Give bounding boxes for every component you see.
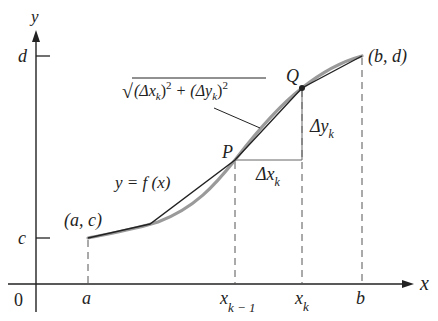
y-tick-c-label: c [18, 228, 26, 248]
point-end-label: (b, d) [368, 46, 407, 67]
diagram-canvas: y d c 0 x a xk − 1 xk b (a, c) (b, d) P … [0, 0, 438, 321]
segment-leader-line [214, 108, 260, 128]
delta-x-label: Δxk [255, 164, 281, 189]
segment-length-formula: √ (Δxk)2 + (Δyk)2 [122, 78, 266, 102]
x-tick-a-label: a [82, 288, 91, 308]
delta-y-label: Δyk [309, 116, 335, 141]
point-p-label: P [221, 142, 233, 162]
x-axis-label: x [419, 272, 429, 294]
y-axis-label: y [29, 7, 39, 26]
axes [8, 30, 414, 312]
y-tick-d-label: d [18, 46, 28, 66]
x-tick-b-label: b [356, 288, 365, 308]
arc-length-diagram: y d c 0 x a xk − 1 xk b (a, c) (b, d) P … [0, 0, 438, 321]
origin-label: 0 [14, 290, 23, 310]
sqrt-icon: √ [122, 80, 133, 102]
point-start-label: (a, c) [64, 210, 102, 231]
y-axis-arrow-icon [32, 30, 40, 42]
x-axis-arrow-icon [402, 280, 414, 288]
x-tick-xk-label: xk [294, 288, 309, 314]
x-tick-xk-1-label: xk − 1 [219, 288, 256, 315]
point-q-label: Q [286, 66, 299, 86]
sqrt-body: (Δxk)2 + (Δyk)2 [134, 79, 228, 102]
point-q-dot [299, 85, 305, 91]
function-label: y = f (x) [113, 173, 171, 192]
